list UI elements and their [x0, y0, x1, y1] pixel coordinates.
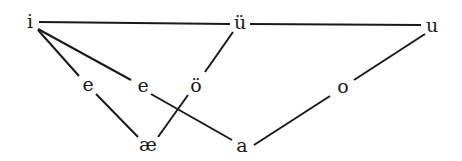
edge-e2-a: [151, 94, 232, 140]
edge-e1-ae: [96, 94, 138, 137]
vowel-e-2: e: [137, 76, 148, 95]
edge-u-umlaut-u: [250, 24, 421, 25]
vowel-u-umlaut: ü: [234, 13, 246, 32]
vowel-i: i: [27, 12, 33, 31]
vowel-e-1: e: [82, 75, 93, 94]
vowel-u: u: [426, 16, 438, 35]
vowel-diagram: i ü u e e ö o æ a: [0, 0, 462, 161]
vowel-o-umlaut: ö: [190, 76, 201, 95]
edge-i-u-umlaut: [39, 22, 230, 24]
vowel-o: o: [337, 77, 348, 96]
vowel-a: a: [236, 136, 247, 155]
diagram-edges: [0, 0, 462, 161]
edge-u-o: [354, 34, 425, 80]
edge-u-umlaut-o-umlaut: [205, 32, 233, 72]
edge-i-e1: [38, 30, 79, 76]
edge-o-a: [254, 96, 330, 145]
vowel-ae: æ: [139, 135, 157, 154]
